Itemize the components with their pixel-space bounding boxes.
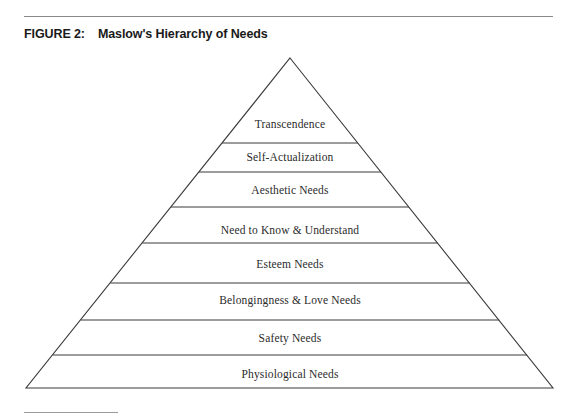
pyramid-tier-label-1: Transcendence (255, 118, 326, 130)
pyramid-tier-label-3: Aesthetic Needs (251, 184, 328, 196)
pyramid-tier-label-8: Physiological Needs (241, 368, 338, 380)
pyramid-diagram: TranscendenceSelf-ActualizationAesthetic… (0, 0, 577, 420)
footnote-separator-rule (24, 412, 118, 413)
figure-page: FIGURE 2: Maslow's Hierarchy of Needs Tr… (0, 0, 577, 420)
pyramid-svg (0, 0, 577, 420)
pyramid-tier-label-6: Belongingness & Love Needs (219, 294, 361, 306)
pyramid-tier-label-4: Need to Know & Understand (221, 224, 360, 236)
pyramid-tier-label-5: Esteem Needs (256, 258, 323, 270)
pyramid-tier-label-7: Safety Needs (259, 332, 322, 344)
pyramid-tier-label-2: Self-Actualization (246, 151, 333, 163)
